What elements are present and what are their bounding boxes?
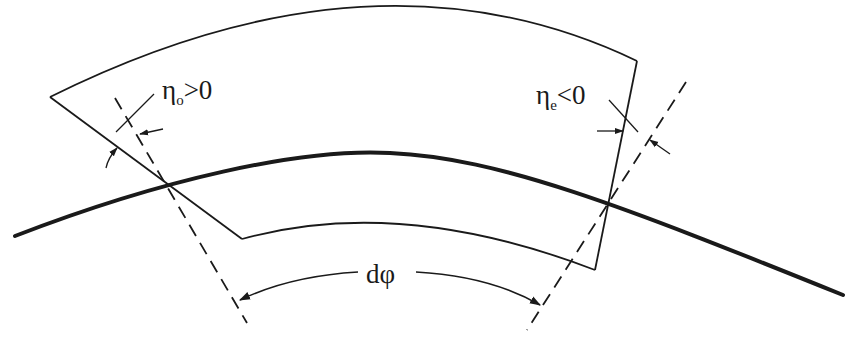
labels: ηo>0 ηe<0 dφ	[162, 75, 586, 289]
entrance-leader	[116, 94, 154, 132]
exit-normal	[527, 82, 686, 330]
exit-angle-indicator	[597, 100, 670, 154]
entrance-angle-indicator	[106, 94, 163, 168]
inner-arc	[242, 223, 595, 270]
entrance-edge	[50, 97, 242, 239]
dphi-arc-left	[240, 272, 358, 300]
edge-normals	[115, 82, 686, 330]
dphi-arc-right	[416, 272, 540, 305]
exit-angle-label: ηe<0	[536, 80, 586, 113]
entrance-arrow-outer	[106, 148, 117, 168]
exit-edge	[595, 61, 637, 270]
diagram-canvas: ηo>0 ηe<0 dφ	[0, 0, 852, 339]
exit-arrow-outer	[650, 140, 670, 154]
entrance-angle-label: ηo>0	[162, 75, 212, 108]
entrance-normal	[115, 98, 247, 323]
entrance-arrow-inner	[140, 129, 163, 134]
bend-angle-label: dφ	[366, 259, 395, 289]
